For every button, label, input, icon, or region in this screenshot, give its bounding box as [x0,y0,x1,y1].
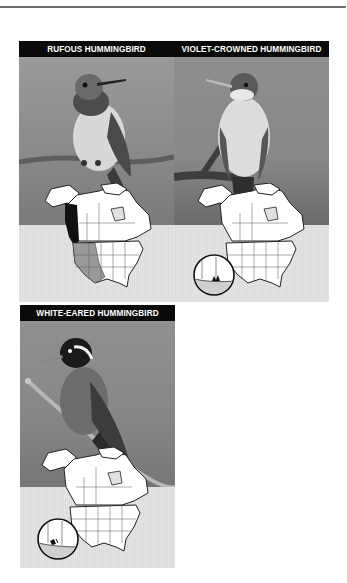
panel-title: RUFOUS HUMMINGBIRD [19,41,174,57]
inset-magnifier [194,255,236,301]
panel-title: WHITE-EARED HUMMINGBIRD [20,305,175,321]
inset-magnifier [38,519,80,565]
panel-white-eared: WHITE-EARED HUMMINGBIRD [20,305,175,568]
panel-rufous: RUFOUS HUMMINGBIRD [19,41,174,302]
range-map [39,183,159,295]
panel-violet-crowned: VIOLET-CROWNED HUMMINGBIRD [174,41,329,302]
top-rule [0,6,346,8]
range-map [192,183,312,301]
range-map [36,447,156,565]
panel-title: VIOLET-CROWNED HUMMINGBIRD [174,41,329,57]
